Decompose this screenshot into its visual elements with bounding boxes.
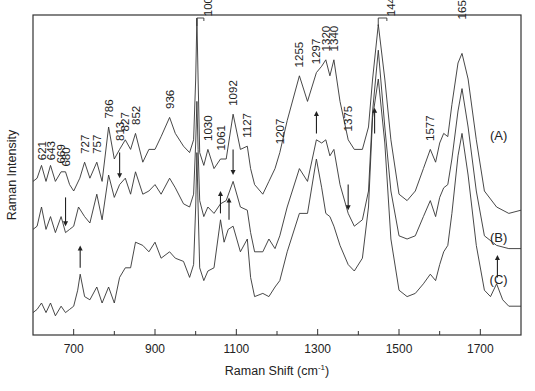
peak-label: 936 bbox=[164, 90, 176, 109]
series-label-c: (C) bbox=[490, 272, 508, 287]
down-arrow-icon bbox=[117, 153, 122, 179]
spectrum-line-b bbox=[33, 50, 521, 252]
peak-label: 1061 bbox=[215, 125, 227, 151]
peak-label: 727 bbox=[79, 135, 91, 154]
peak-labels: 6216436696807277577868138278529361003103… bbox=[36, 0, 469, 167]
raman-spectra-chart: 6216436696807277577868138278529361003103… bbox=[0, 0, 535, 391]
peak-label: 1449 bbox=[385, 0, 397, 16]
x-axis-ticks: 7009001100130015001700 bbox=[64, 329, 494, 356]
x-tick-label: 1300 bbox=[304, 342, 331, 356]
peak-bracket bbox=[378, 18, 387, 26]
spectrum-curves bbox=[33, 18, 521, 316]
peak-label: 680 bbox=[60, 147, 72, 166]
peak-label: 1030 bbox=[202, 115, 214, 141]
peak-label: 757 bbox=[91, 135, 103, 154]
up-arrow-icon bbox=[218, 191, 223, 213]
up-arrow-icon bbox=[314, 111, 319, 133]
down-arrow-icon bbox=[63, 197, 68, 226]
peak-label: 1207 bbox=[274, 119, 286, 145]
peak-label: 852 bbox=[130, 106, 142, 125]
series-label-b: (B) bbox=[490, 230, 507, 245]
peak-label: 1655 bbox=[456, 0, 468, 19]
peak-bracket bbox=[197, 18, 204, 26]
up-arrow-icon bbox=[227, 197, 232, 219]
down-arrow-icon bbox=[231, 149, 236, 175]
x-tick-label: 700 bbox=[64, 342, 84, 356]
series-labels: (A)(B)(C) bbox=[490, 128, 508, 287]
y-axis-title: Raman Intensity bbox=[5, 129, 19, 220]
up-arrow-icon bbox=[78, 245, 83, 267]
peak-label: 1255 bbox=[293, 42, 305, 68]
peak-label: 1340 bbox=[328, 26, 340, 52]
peak-label: 786 bbox=[103, 99, 115, 118]
x-tick-label: 1700 bbox=[467, 342, 494, 356]
peak-label: 1375 bbox=[342, 106, 354, 132]
x-tick-label: 1500 bbox=[386, 342, 413, 356]
plot-border bbox=[33, 15, 521, 335]
peak-label: 1003 bbox=[202, 0, 214, 16]
peak-label: 1577 bbox=[424, 115, 436, 141]
x-axis-title-close: ) bbox=[325, 364, 329, 378]
x-axis-title-main: Raman Shift (cm bbox=[225, 364, 318, 378]
x-tick-label: 900 bbox=[145, 342, 165, 356]
series-label-a: (A) bbox=[490, 128, 507, 143]
peak-brackets bbox=[197, 18, 387, 26]
x-axis-title: Raman Shift (cm-1) bbox=[225, 363, 329, 378]
peak-label: 1127 bbox=[241, 113, 253, 138]
plot-frame bbox=[33, 15, 521, 335]
x-tick-label: 1100 bbox=[223, 342, 249, 356]
peak-label: 1092 bbox=[227, 80, 239, 106]
down-arrow-icon bbox=[346, 185, 351, 211]
